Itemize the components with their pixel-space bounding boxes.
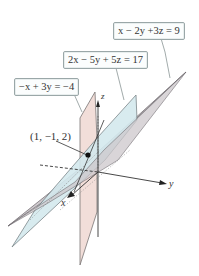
plane-blue-shape [12,95,137,247]
z-axis-arrow-icon [96,100,100,107]
point-label: (1, −1, 2) [30,130,71,142]
label-plane-pink: −x + 3y = −4 [14,78,79,96]
axis-label-y: y [169,178,173,189]
y-axis-arrow-icon [159,180,167,185]
axis-label-x: x [61,197,65,208]
y-axis [98,172,162,183]
label-plane-blue: 2x − 5y + 5z = 17 [63,51,148,69]
axis-label-z: z [101,91,105,101]
label-plane-gray: x − 2y +3z = 9 [113,22,185,40]
intersection-point [85,152,90,157]
